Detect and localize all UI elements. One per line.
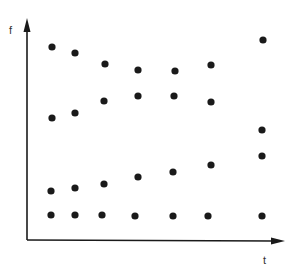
data-point bbox=[258, 152, 265, 159]
x-axis-arrow-icon bbox=[271, 238, 285, 245]
data-point bbox=[47, 187, 54, 194]
data-point bbox=[100, 97, 107, 104]
y-axis bbox=[24, 18, 31, 240]
data-point bbox=[207, 98, 214, 105]
data-point bbox=[48, 43, 55, 50]
data-point bbox=[48, 114, 55, 121]
data-point bbox=[98, 211, 105, 218]
x-axis bbox=[27, 238, 285, 245]
data-point bbox=[259, 36, 266, 43]
data-point bbox=[134, 173, 141, 180]
data-point bbox=[170, 92, 177, 99]
data-point bbox=[169, 212, 176, 219]
y-axis-arrow-icon bbox=[24, 18, 31, 32]
data-point bbox=[134, 92, 141, 99]
data-point bbox=[100, 180, 107, 187]
data-point bbox=[47, 211, 54, 218]
data-point bbox=[171, 67, 178, 74]
data-point bbox=[204, 212, 211, 219]
data-point bbox=[134, 66, 141, 73]
data-point bbox=[258, 212, 265, 219]
data-point bbox=[101, 60, 108, 67]
data-point bbox=[207, 161, 214, 168]
data-point bbox=[71, 184, 78, 191]
data-point bbox=[71, 49, 78, 56]
y-axis-label: f bbox=[9, 24, 12, 36]
data-point bbox=[71, 109, 78, 116]
data-point bbox=[258, 126, 265, 133]
data-point bbox=[131, 212, 138, 219]
data-point bbox=[71, 211, 78, 218]
data-point bbox=[169, 168, 176, 175]
data-point bbox=[207, 61, 214, 68]
data-points bbox=[47, 36, 266, 219]
x-axis-label: t bbox=[263, 254, 266, 266]
scatter-plot bbox=[0, 0, 298, 276]
